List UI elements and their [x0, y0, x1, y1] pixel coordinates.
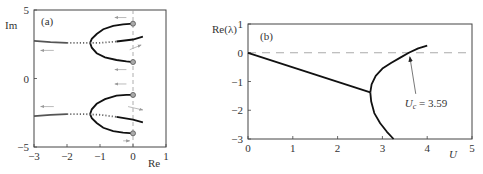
panel-a: −3−2−101−505 (a) Im Re — [5, 4, 169, 169]
x-tick-label-b: 4 — [424, 142, 430, 154]
endpoint-marker — [131, 21, 136, 26]
upper-inner-branch — [90, 43, 133, 62]
upper-horizontal-branch — [34, 37, 143, 43]
x-tick-label-b: 3 — [380, 142, 386, 154]
x-axis-label-a: Re — [148, 157, 160, 169]
lower-horizontal-branch-right-solid — [117, 117, 143, 122]
y-tick-label-b: −2 — [231, 104, 243, 116]
upper-horizontal-branch-right-solid — [117, 37, 143, 42]
y-tick-label-b: −1 — [231, 76, 243, 88]
x-tick-label-b: 0 — [245, 142, 251, 154]
y-tick-label-a: 0 — [24, 73, 30, 85]
x-tick-label-a: −1 — [94, 150, 106, 162]
upper-horizontal-branch-dotted — [67, 42, 117, 43]
linear-branch — [248, 53, 370, 93]
series-b — [248, 46, 427, 139]
arrows-a — [41, 18, 143, 141]
lower-branch — [370, 92, 393, 139]
y-tick-label-b: 1 — [238, 18, 244, 30]
x-tick-label-b: 2 — [335, 142, 341, 154]
endpoint-marker — [131, 131, 136, 136]
x-tick-label-a: 1 — [163, 150, 169, 162]
figure: −3−2−101−505 (a) Im Re 01234510−1−2−3 (b… — [0, 0, 483, 174]
annotation-value: = 3.59 — [416, 97, 447, 109]
x-tick-label-a: 0 — [130, 150, 136, 162]
x-axis-label-b: U — [449, 148, 458, 160]
x-tick-label-b: 1 — [290, 142, 296, 154]
x-tick-label-a: −2 — [61, 150, 73, 162]
direction-arrow — [128, 107, 143, 110]
ticks-a: −3−2−101−505 — [17, 4, 168, 162]
x-tick-label-a: −3 — [28, 150, 40, 162]
y-tick-label-b: 0 — [238, 47, 244, 59]
y-tick-label-b: −3 — [231, 133, 243, 145]
annotation-uc: Uc = 3.59 — [405, 97, 448, 111]
endpoint-marker — [131, 60, 136, 65]
y-axis-label-a: Im — [5, 19, 18, 31]
panel-label-a: (a) — [41, 15, 54, 28]
x-tick-label-b: 5 — [469, 142, 475, 154]
plot-frame-b — [248, 24, 472, 139]
y-tick-label-a: −5 — [17, 141, 29, 153]
panel-label-b: (b) — [260, 30, 273, 43]
direction-arrow — [130, 45, 142, 50]
endpoint-marker — [131, 92, 136, 97]
y-axis-label-b: Re(λ) — [212, 23, 237, 36]
upper-horizontal-branch-left-solid — [34, 41, 67, 43]
lower-outer-branch — [90, 114, 133, 133]
lower-inner-branch — [90, 95, 133, 114]
series-a — [34, 24, 143, 134]
annotation-arrow — [410, 57, 416, 94]
lower-horizontal-branch — [34, 114, 143, 122]
panel-b: 01234510−1−2−3 (b) Re(λ) U Uc = 3.59 — [212, 18, 475, 160]
lower-horizontal-branch-left-solid — [34, 114, 67, 116]
y-tick-label-a: 5 — [24, 4, 30, 16]
